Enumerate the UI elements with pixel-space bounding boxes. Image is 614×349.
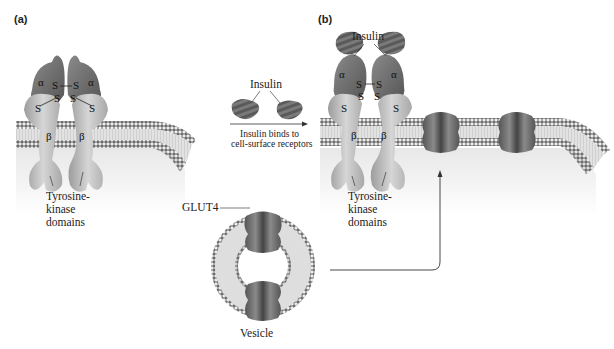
alpha-label-left: α (38, 76, 44, 88)
disulfide-s: S (89, 102, 95, 114)
insulin-molecule (277, 100, 303, 119)
beta-label-left: β (351, 129, 357, 141)
glut4-in-membrane (422, 112, 459, 153)
disulfide-s: S (70, 92, 76, 104)
disulfide-s: S (356, 78, 362, 90)
glut4-in-membrane (498, 112, 535, 153)
alpha-label-left: α (339, 68, 345, 80)
tk-label-a-line3: domains (46, 216, 85, 228)
disulfide-s: S (376, 78, 382, 90)
alpha-label-right: α (391, 68, 397, 80)
beta-label-left: β (46, 130, 52, 142)
panel-b: (b) Insulin α α S S S S S S (318, 13, 610, 270)
tk-label-b-line2: kinase (348, 203, 377, 215)
transition: Insulin Insulin binds to cell-surface re… (230, 78, 313, 149)
tk-label-b-line1: Tyrosine- (348, 190, 392, 203)
insulin-label-transition: Insulin (250, 78, 282, 90)
vesicle-label: Vesicle (240, 327, 273, 339)
disulfide-s: S (393, 102, 399, 114)
disulfide-s: S (341, 102, 347, 114)
disulfide-s: S (52, 79, 58, 91)
disulfide-s: S (374, 90, 380, 102)
tk-label-b-line3: domains (348, 216, 387, 228)
caption-line1: Insulin binds to (240, 129, 299, 139)
disulfide-s: S (73, 79, 79, 91)
tk-label-a-line1: Tyrosine- (46, 190, 90, 203)
disulfide-s: S (35, 102, 41, 114)
disulfide-s: S (358, 90, 364, 102)
alpha-label-right: α (88, 76, 94, 88)
glut4-transporter (244, 212, 281, 254)
insulin-label-b: Insulin (352, 30, 384, 42)
glut4-transporter (245, 281, 281, 321)
panel-a-label: (a) (14, 13, 28, 25)
tk-label-a-line2: kinase (46, 203, 75, 215)
beta-label-right: β (79, 130, 85, 142)
panel-a: (a) α α S S S S S S β β (14, 13, 196, 228)
beta-label-right: β (381, 129, 387, 141)
insulin-glut4-diagram: (a) α α S S S S S S β β (0, 0, 614, 349)
disulfide-s: S (54, 92, 60, 104)
vesicle-group: GLUT4 Vesicle (182, 201, 315, 339)
glut4-label: GLUT4 (182, 201, 219, 213)
insulin-molecule (232, 99, 259, 119)
caption-line2: cell-surface receptors (231, 139, 313, 149)
panel-b-label: (b) (318, 13, 332, 25)
